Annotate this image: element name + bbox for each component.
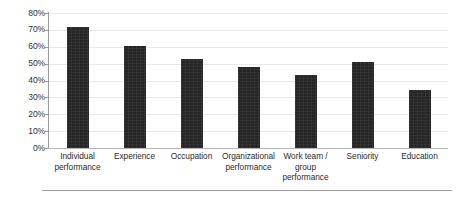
x-label-line: performance: [277, 172, 334, 183]
y-tick-label-0: 0%: [5, 144, 45, 153]
x-label-line: group: [277, 162, 334, 173]
bar-slot-0: [49, 13, 106, 148]
bar-seniority: [352, 62, 374, 148]
x-label-line: Work team /: [277, 151, 334, 162]
bar-slot-2: [163, 13, 220, 148]
x-label-line: Occupation: [163, 151, 220, 162]
bar-experience: [124, 46, 146, 148]
x-label-line: Individual: [49, 151, 106, 162]
y-tick-label-60: 60%: [5, 42, 45, 51]
y-tick-label-20: 20%: [5, 110, 45, 119]
x-label-line: Education: [391, 151, 448, 162]
x-label-organizational-performance: Organizational performance: [218, 151, 279, 172]
y-axis-tick-labels: 80% 70% 60% 50% 40% 30% 20% 10% 0%: [0, 0, 45, 160]
bar-chart-figure: 80% 70% 60% 50% 40% 30% 20% 10% 0%: [0, 0, 460, 200]
x-label-individual-performance: Individual performance: [49, 151, 106, 172]
x-label-line: Seniority: [334, 151, 391, 162]
y-tick-label-70: 70%: [5, 25, 45, 34]
bar-individual-performance: [67, 27, 89, 149]
x-label-experience: Experience: [106, 151, 163, 162]
x-label-seniority: Seniority: [334, 151, 391, 162]
bar-slot-3: [220, 13, 277, 148]
x-label-education: Education: [391, 151, 448, 162]
bar-slot-1: [106, 13, 163, 148]
x-label-work-team-group-performance: Work team / group performance: [277, 151, 334, 183]
bars-layer: [49, 13, 448, 148]
bar-work-team-group-performance: [295, 75, 317, 148]
x-label-line: performance: [218, 162, 279, 173]
bar-slot-4: [277, 13, 334, 148]
bar-slot-5: [334, 13, 391, 148]
x-label-line: performance: [49, 162, 106, 173]
y-tick-label-30: 30%: [5, 93, 45, 102]
bar-organizational-performance: [238, 67, 260, 148]
x-axis-baseline: [48, 148, 448, 149]
bottom-horizontal-rule: [42, 190, 452, 191]
x-label-line: Organizational: [218, 151, 279, 162]
x-label-line: Experience: [106, 151, 163, 162]
bar-education: [409, 90, 431, 148]
bar-occupation: [181, 59, 203, 148]
y-tick-label-50: 50%: [5, 59, 45, 68]
y-tick-label-80: 80%: [5, 9, 45, 18]
y-tick-label-40: 40%: [5, 76, 45, 85]
x-label-occupation: Occupation: [163, 151, 220, 162]
y-tick-label-10: 10%: [5, 127, 45, 136]
bar-slot-6: [391, 13, 448, 148]
